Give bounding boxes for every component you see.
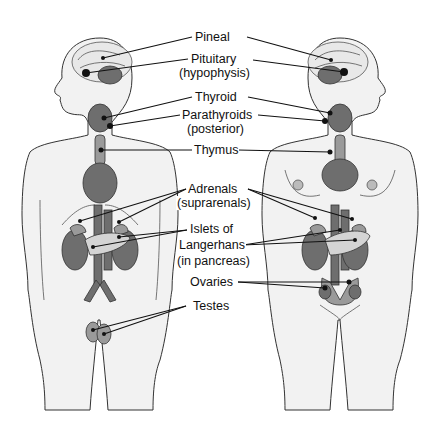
label-parathyroids-sub: (posterior) (186, 122, 245, 136)
label-pineal: Pineal (194, 30, 231, 44)
label-thyroid: Thyroid (194, 90, 238, 104)
label-islets: Islets of (189, 222, 234, 236)
label-testes: Testes (192, 299, 230, 313)
male-figure (22, 38, 178, 410)
female-figure (262, 38, 418, 410)
endocrine-diagram: Pineal Pituitary (hypophysis) Thyroid Pa… (0, 0, 430, 443)
label-adrenals: Adrenals (187, 182, 238, 196)
label-islets-sub2: (in pancreas) (176, 254, 251, 268)
label-thymus: Thymus (193, 143, 239, 157)
label-adrenals-sub: (suprarenals) (176, 196, 252, 210)
label-ovaries: Ovaries (189, 275, 234, 289)
label-islets-sub: Langerhans (178, 238, 246, 252)
label-parathyroids: Parathyroids (181, 108, 253, 122)
label-pituitary: Pituitary (190, 52, 237, 66)
label-pituitary-sub: (hypophysis) (178, 66, 251, 80)
